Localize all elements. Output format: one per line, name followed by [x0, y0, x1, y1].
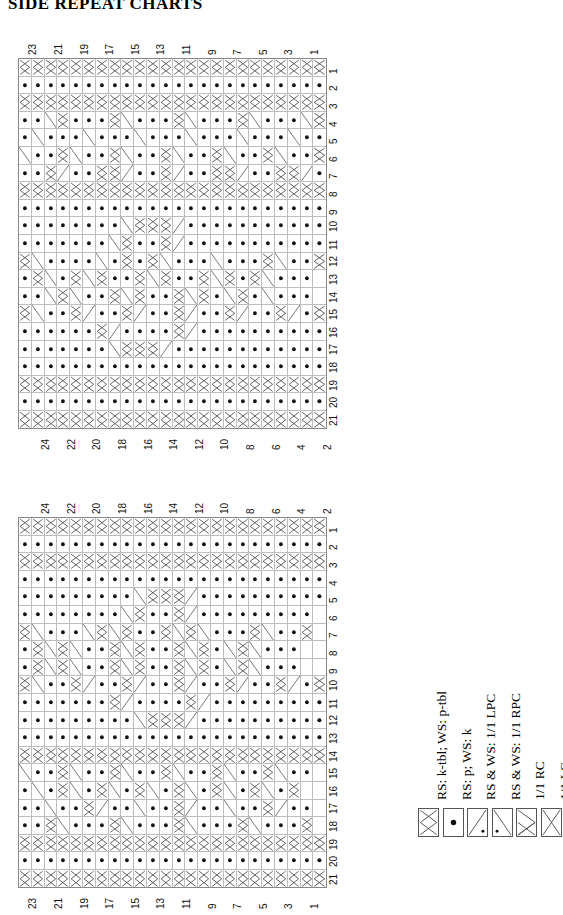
chart-cell: [198, 112, 211, 130]
chart-cell: [198, 870, 211, 888]
twisted-knit-icon: [160, 553, 172, 570]
chart-cell: [211, 59, 224, 77]
twisted-knit-icon: [301, 624, 313, 641]
purl-dot-icon: [57, 624, 69, 641]
purl-dot-icon: [19, 606, 31, 623]
purl-dot-icon: [313, 393, 326, 410]
purl-dot-icon: [224, 817, 236, 834]
twisted-knit-icon: [19, 59, 31, 76]
twisted-knit-icon: [198, 411, 210, 429]
purl-dot-icon: [249, 288, 261, 305]
chart-cell: [134, 870, 147, 888]
chart-cell: [301, 270, 314, 288]
purl-dot-icon: [96, 200, 108, 217]
chart-cell: [275, 852, 288, 870]
twisted-knit-icon: [83, 870, 95, 888]
purl-dot-icon: [249, 235, 261, 252]
purl-dot-icon: [19, 800, 31, 817]
purl-dot-icon: [262, 323, 274, 340]
chart-cell: [83, 835, 96, 853]
purl-dot-icon: [237, 852, 249, 869]
chart-cell: [288, 165, 301, 183]
purl-dot-icon: [211, 341, 223, 358]
chart-cell: [262, 518, 275, 536]
twisted-knit-icon: [19, 94, 31, 111]
purl-dot-icon: [109, 536, 121, 553]
chart-cell: [147, 59, 160, 77]
purl-dot-icon: [83, 694, 95, 711]
chart-cell: [121, 358, 134, 376]
chart-cell: [211, 253, 224, 271]
chart-cell: [160, 217, 173, 235]
chart-cell: [57, 588, 70, 606]
twisted-knit-icon: [134, 411, 146, 429]
purl-dot-icon: [32, 852, 44, 869]
chart-cell: [96, 694, 109, 712]
purl-dot-icon: [121, 852, 133, 869]
purl-dot-icon: [262, 606, 274, 623]
twisted-knit-icon: [237, 94, 249, 111]
chart-cell: [57, 253, 70, 271]
chart-cell: [32, 518, 45, 536]
chart-cell: [262, 553, 275, 571]
twisted-knit-icon: [275, 305, 287, 322]
chart-cell: [70, 129, 83, 147]
column-label: 1: [310, 49, 320, 55]
twisted-knit-icon: [134, 94, 146, 111]
twisted-knit-icon: [45, 165, 57, 182]
twisted-knit-icon: [160, 835, 172, 852]
chart-cell: [198, 694, 211, 712]
purl-dot-icon: [109, 729, 121, 746]
purl-dot-icon: [45, 305, 57, 322]
chart-cell: [313, 835, 326, 853]
chart-cell: [134, 147, 147, 165]
purl-dot-icon: [96, 571, 108, 588]
purl-dot-icon: [83, 147, 95, 164]
chart-cell: [121, 323, 134, 341]
purl-dot-icon: [109, 129, 121, 146]
chart-cell: [185, 729, 198, 747]
chart-cell: [70, 852, 83, 870]
right-travel-icon: [211, 270, 223, 287]
chart-cell: [224, 659, 237, 677]
row-label: 16: [329, 327, 339, 338]
purl-dot-icon: [262, 712, 274, 729]
twisted-knit-icon: [313, 870, 326, 888]
column-label: 5: [259, 49, 269, 55]
chart-cell: [173, 712, 186, 730]
chart-cell: [275, 676, 288, 694]
twisted-knit-icon: [109, 835, 121, 852]
chart-cell: [134, 536, 147, 554]
chart-cell: [160, 624, 173, 642]
chart-cell: [275, 411, 288, 429]
twisted-knit-icon: [19, 305, 31, 322]
twisted-knit-icon: [45, 817, 57, 834]
row-label: 17: [329, 803, 339, 814]
purl-dot-icon: [313, 200, 326, 217]
chart-cell: [57, 729, 70, 747]
twisted-knit-icon: [173, 870, 185, 888]
purl-dot-icon: [288, 358, 300, 375]
right-travel-icon: [237, 129, 249, 146]
twisted-knit-icon: [134, 553, 146, 570]
purl-dot-icon: [70, 200, 82, 217]
chart-cell: [147, 606, 160, 624]
twisted-knit-icon: [173, 376, 185, 393]
chart-cell: [211, 235, 224, 253]
chart-cell: [96, 59, 109, 77]
chart-cell: [45, 676, 58, 694]
purl-dot-icon: [160, 729, 172, 746]
chart-cell: [32, 571, 45, 589]
twisted-knit-icon: [301, 835, 313, 852]
purl-dot-icon: [249, 200, 261, 217]
chart-cell: [70, 200, 83, 218]
purl-dot-icon: [237, 253, 249, 270]
chart-cell: [224, 782, 237, 800]
purl-dot-icon: [301, 712, 313, 729]
chart-cell: [224, 536, 237, 554]
purl-dot-icon: [301, 729, 313, 746]
twisted-knit-icon: [211, 870, 223, 888]
column-label: 3: [284, 903, 294, 909]
purl-dot-icon: [237, 341, 249, 358]
chart-cell: [262, 764, 275, 782]
